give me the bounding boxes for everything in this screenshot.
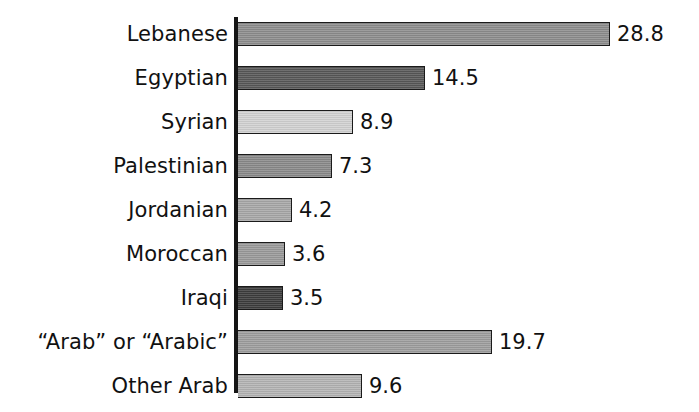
category-label: Iraqi bbox=[181, 276, 228, 320]
bar-value-label: 3.5 bbox=[290, 286, 323, 310]
bar-row: “Arab” or “Arabic” 19.7 bbox=[0, 320, 699, 364]
bar-value-label: 28.8 bbox=[617, 22, 664, 46]
bar-row: Moroccan 3.6 bbox=[0, 232, 699, 276]
category-label: Syrian bbox=[161, 100, 228, 144]
bar-group: 9.6 bbox=[238, 374, 402, 398]
bar-group: 14.5 bbox=[238, 66, 479, 90]
bar-value-label: 7.3 bbox=[339, 154, 372, 178]
bar-value-label: 8.9 bbox=[360, 110, 393, 134]
bar-value-label: 9.6 bbox=[369, 374, 402, 398]
bar-group: 3.5 bbox=[238, 286, 323, 310]
bar-group: 19.7 bbox=[238, 330, 546, 354]
bar bbox=[238, 154, 332, 178]
bar-group: 28.8 bbox=[238, 22, 664, 46]
category-label: Other Arab bbox=[112, 364, 229, 408]
category-label: Moroccan bbox=[126, 232, 228, 276]
category-label: Lebanese bbox=[127, 12, 228, 56]
bar bbox=[238, 198, 292, 222]
bar-chart: Lebanese 28.8 Egyptian 14.5 Syrian 8.9 P… bbox=[0, 0, 699, 412]
bar bbox=[238, 110, 353, 134]
category-label: Jordanian bbox=[128, 188, 228, 232]
bar bbox=[238, 286, 283, 310]
bar-value-label: 19.7 bbox=[499, 330, 546, 354]
category-label: “Arab” or “Arabic” bbox=[37, 320, 228, 364]
bar bbox=[238, 22, 610, 46]
bar-group: 7.3 bbox=[238, 154, 372, 178]
bar-value-label: 14.5 bbox=[432, 66, 479, 90]
bar-row: Syrian 8.9 bbox=[0, 100, 699, 144]
bar-row: Palestinian 7.3 bbox=[0, 144, 699, 188]
bar bbox=[238, 66, 425, 90]
category-label: Egyptian bbox=[135, 56, 228, 100]
bar bbox=[238, 330, 492, 354]
category-label: Palestinian bbox=[113, 144, 228, 188]
bar-row: Egyptian 14.5 bbox=[0, 56, 699, 100]
bar-row: Iraqi 3.5 bbox=[0, 276, 699, 320]
bar-group: 3.6 bbox=[238, 242, 325, 266]
bar bbox=[238, 374, 362, 398]
bar-row: Lebanese 28.8 bbox=[0, 12, 699, 56]
bar-row: Other Arab 9.6 bbox=[0, 364, 699, 408]
bar-group: 8.9 bbox=[238, 110, 393, 134]
bar-value-label: 3.6 bbox=[292, 242, 325, 266]
bar-value-label: 4.2 bbox=[299, 198, 332, 222]
bar-row: Jordanian 4.2 bbox=[0, 188, 699, 232]
bar bbox=[238, 242, 285, 266]
bar-group: 4.2 bbox=[238, 198, 332, 222]
